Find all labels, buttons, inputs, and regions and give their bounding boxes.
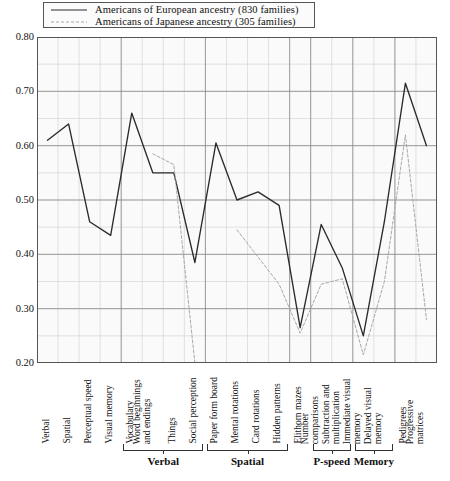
- y-axis-tick-label: 0.30: [0, 304, 34, 314]
- group-bracket-tick: [332, 450, 333, 454]
- x-axis-tick-label: Numbercomparisons: [301, 396, 320, 444]
- legend-item-japanese: Americans of Japanese ancestry (305 fami…: [47, 16, 311, 28]
- x-axis-tick-label: Visual memory: [105, 386, 115, 444]
- y-axis-tick-label: 0.80: [0, 32, 34, 42]
- x-axis-tick-label: Hidden patterns: [274, 384, 284, 444]
- y-axis-tick-label: 0.20: [0, 358, 34, 368]
- group-label: Spatial: [187, 455, 307, 468]
- x-axis-tick-label: Perceptual speed: [84, 380, 94, 444]
- x-axis-tick-label: Immediate visualmemory: [343, 378, 362, 444]
- x-axis-tick-label: Verbal: [42, 419, 52, 444]
- x-axis-tick-label: Card rotations: [252, 390, 262, 444]
- legend-line-solid-icon: [47, 5, 91, 15]
- legend-line-dashed-icon: [47, 17, 91, 27]
- group-brackets: VerbalSpatialP-speedMemory: [37, 444, 437, 481]
- chart-canvas: [37, 37, 437, 363]
- x-axis-tick-label: Mental rotations: [231, 381, 241, 444]
- chart-figure: Americans of European ancestry (830 fami…: [0, 0, 450, 481]
- x-axis-tick-label: Subtraction andmultiplication: [322, 384, 341, 444]
- x-axis-tick-label: Delayed visualmemory: [364, 387, 383, 444]
- legend-label-japanese: Americans of Japanese ancestry (305 fami…: [91, 16, 296, 28]
- y-axis: 0.800.700.600.500.400.300.20: [0, 37, 34, 363]
- legend-item-european: Americans of European ancestry (830 fami…: [47, 4, 311, 16]
- x-axis-tick-label: Progressivematrices: [406, 400, 425, 444]
- x-axis-tick-label: Paper form board: [210, 378, 220, 444]
- y-axis-tick-label: 0.60: [0, 141, 34, 151]
- x-axis-tick-label: Things: [168, 418, 178, 444]
- group-bracket-tick: [248, 450, 249, 454]
- group-label: Memory: [335, 455, 413, 468]
- x-axis: VerbalSpatialPerceptual speedVisual memo…: [37, 366, 437, 444]
- y-axis-tick-label: 0.70: [0, 86, 34, 96]
- y-axis-tick-label: 0.40: [0, 249, 34, 259]
- legend-label-european: Americans of European ancestry (830 fami…: [91, 4, 299, 16]
- group-bracket-tick: [374, 450, 375, 454]
- y-axis-tick-label: 0.50: [0, 195, 34, 205]
- x-axis-tick-label: Social perception: [189, 378, 199, 444]
- chart-legend: Americans of European ancestry (830 fami…: [43, 2, 315, 28]
- group-bracket-tick: [163, 450, 164, 454]
- x-axis-tick-label: Spatial: [63, 418, 73, 444]
- plot-area: [37, 37, 437, 363]
- x-axis-tick-label: Word beginningsand endings: [133, 379, 152, 444]
